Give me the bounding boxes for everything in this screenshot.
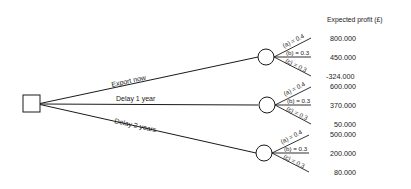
prob-label-b: (b) = 0.3 [287, 97, 311, 104]
branch-label-delay-1-year: Delay 1 year [116, 95, 156, 103]
outcomes-delay-1-year: (a) = 0.4 (b) = 0.3 (c) = 0.3 [275, 80, 311, 124]
profit-value: 800.000 [330, 34, 356, 43]
profit-value: 450.000 [330, 53, 356, 62]
chance-node-delay-2-years [256, 145, 272, 161]
outcomes-delay-2-years: (a) = 0.4 (b) = 0.3 (c) = 0.3 [272, 128, 309, 172]
prob-label-a: (a) = 0.4 [282, 80, 306, 97]
expected-profit-header: Expected profit (£) [327, 16, 383, 24]
branch-label-export-now: Export now [111, 74, 148, 89]
profit-value: 370.000 [330, 101, 356, 110]
prob-label-a: (a) = 0.4 [279, 128, 303, 145]
prob-label-c: (c) = 0.3 [286, 105, 310, 122]
profit-value: 200.000 [330, 149, 356, 158]
prob-label-a: (a) = 0.4 [281, 32, 305, 49]
profit-value: -324.000 [326, 72, 354, 81]
chance-node-export-now [258, 49, 274, 65]
chance-node-delay-1-year [259, 97, 275, 113]
profit-value: 80.000 [334, 168, 356, 177]
decision-node [23, 95, 40, 112]
prob-label-b: (b) = 0.3 [286, 49, 310, 56]
prob-label-b: (b) = 0.3 [284, 145, 308, 152]
profit-value: 500.000 [330, 130, 356, 139]
outcomes-export-now: (a) = 0.4 (b) = 0.3 (c) = 0.3 [274, 32, 311, 76]
decision-tree: Export now Delay 1 year Delay 2 years (a… [0, 0, 411, 189]
profit-values: 800.000 450.000 -324.000 600.000 370.000… [326, 34, 356, 177]
profit-value: 50.000 [334, 120, 356, 129]
prob-label-c: (c) = 0.3 [283, 153, 307, 170]
branch-label-delay-2-years: Delay 2 years [114, 117, 158, 134]
prob-label-c: (c) = 0.3 [285, 57, 309, 74]
profit-value: 600.000 [330, 82, 356, 91]
branch-delay-2-years: Delay 2 years [40, 105, 256, 154]
